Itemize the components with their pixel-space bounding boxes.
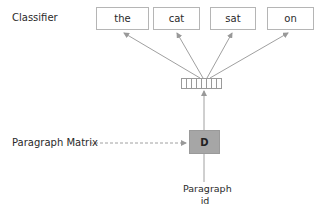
paragraph-id-line2: id [183,195,227,207]
d-label: D [200,137,208,148]
paragraph-matrix-label: Paragraph Matrix [12,137,98,148]
word-box-the: the [96,7,149,30]
classifier-label: Classifier [12,12,58,23]
paragraph-vector [181,78,222,89]
paragraph-id-label: Paragraph id [183,183,227,207]
connector-lines [0,0,325,216]
paragraph-id-line1: Paragraph [183,183,227,195]
vector-cell [216,78,222,89]
word-box-sat: sat [210,7,256,30]
word-box-on: on [267,7,314,30]
paragraph-matrix-d-box: D [189,130,220,154]
word-box-cat: cat [153,7,200,30]
